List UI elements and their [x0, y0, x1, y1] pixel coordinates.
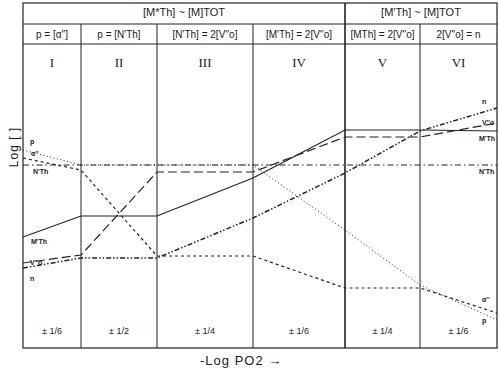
curve-p	[23, 150, 497, 320]
label-vo-right: V''o	[482, 119, 494, 126]
region-6-slope: ± 1/6	[420, 326, 497, 336]
label-p-left: p	[30, 138, 34, 145]
label-mth-left: M'Th	[31, 238, 47, 245]
region-3-numeral: III	[157, 55, 253, 71]
label-n-right: n	[482, 98, 486, 105]
region-1-slope: ± 1/6	[23, 326, 81, 336]
x-axis-label: -Log PO2 →	[200, 353, 282, 368]
label-alpha-right: α''	[482, 296, 490, 303]
y-axis-label: Log [ ]	[7, 127, 21, 167]
label-n-left: n	[30, 275, 34, 282]
region-2-condition: p = [N'Th]	[81, 29, 157, 40]
curve-mth	[23, 130, 497, 237]
curve-vo	[23, 123, 497, 263]
label-p-right: p	[482, 317, 486, 324]
region-6-condition: 2[V''o] = n	[420, 29, 497, 40]
region-4-condition: [M'Th] = 2[V''o]	[253, 29, 345, 40]
region-5-condition: [MTh] = 2[V''o]	[345, 29, 420, 40]
label-nth-left: N'Th	[33, 168, 48, 175]
region-2-slope: ± 1/2	[81, 326, 157, 336]
region-5-slope: ± 1/4	[345, 326, 420, 336]
region-3-slope: ± 1/4	[157, 326, 253, 336]
label-nth-right: N'Th	[479, 168, 494, 175]
group-header-right: [M'Th] ~ [M]TOT	[345, 6, 497, 18]
region-4-slope: ± 1/6	[253, 326, 345, 336]
group-header-left: [M*Th] ~ [M]TOT	[23, 6, 345, 18]
label-vo-left: V''o	[30, 259, 42, 266]
curve-n	[23, 108, 497, 268]
region-3-condition: [N'Th] = 2[V''o]	[157, 29, 253, 40]
region-4-numeral: IV	[253, 55, 345, 71]
region-1-numeral: I	[23, 55, 81, 71]
label-alpha-left: α''	[31, 150, 39, 157]
region-1-condition: p = [α'']	[23, 29, 81, 40]
region-6-numeral: VI	[420, 55, 497, 71]
label-mth-right: M'Th	[479, 135, 495, 142]
region-5-numeral: V	[345, 55, 420, 71]
curve-alpha	[23, 158, 497, 313]
region-2-numeral: II	[81, 55, 157, 71]
